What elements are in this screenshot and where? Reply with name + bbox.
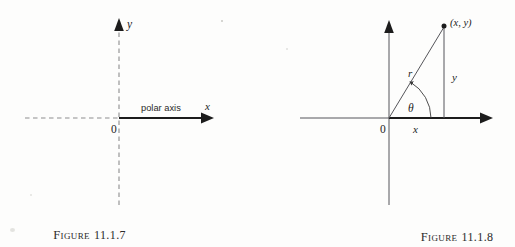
scan-speck — [221, 20, 223, 22]
y-axis-arrowhead — [384, 20, 394, 33]
figure-panel-11-1-7: y x 0 polar axis Figure11.1.7 — [0, 0, 258, 247]
origin-label: 0 — [380, 123, 386, 135]
origin-label: 0 — [111, 123, 117, 135]
figure-caption-word: Figure — [53, 228, 90, 242]
figure-11-1-8-diagram: (x, y) r y x θ 0 — [258, 0, 515, 213]
y-axis-arrowhead — [114, 18, 124, 31]
polar-axis-label: polar axis — [141, 103, 181, 113]
radius-segment — [389, 27, 444, 118]
polar-axis-arrowhead — [201, 113, 214, 124]
point-label: (x, y) — [450, 17, 472, 29]
scan-speck — [286, 48, 288, 50]
x-axis-label: x — [204, 100, 210, 112]
figure-panel-11-1-8: (x, y) r y x θ 0 Figure11.1.8 — [258, 0, 515, 247]
figure-11-1-8-caption: Figure11.1.8 — [322, 218, 515, 247]
figure-caption-number: 11.1.8 — [462, 230, 494, 244]
scan-speck — [10, 228, 15, 232]
scan-speck — [30, 194, 32, 196]
y-axis-label: y — [126, 18, 133, 31]
positive-x-axis-arrowhead — [480, 113, 493, 124]
vertical-leg-label: y — [451, 71, 457, 83]
point-marker — [442, 24, 447, 29]
figure-caption-number: 11.1.7 — [94, 228, 126, 242]
figure-11-1-7-caption: Figure11.1.7 — [0, 216, 212, 247]
figure-caption-word: Figure — [421, 230, 458, 244]
angle-label: θ — [408, 102, 414, 114]
radius-label: r — [408, 67, 413, 79]
horizontal-leg-label: x — [412, 123, 418, 135]
figure-11-1-7-diagram: y x 0 polar axis — [0, 0, 258, 213]
